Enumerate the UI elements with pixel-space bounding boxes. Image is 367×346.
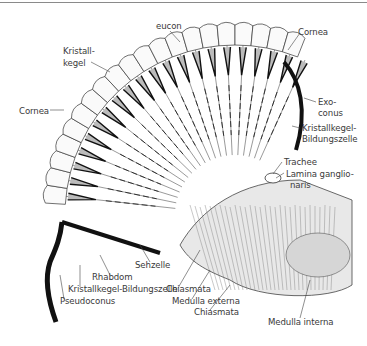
crystal-cone xyxy=(163,61,178,88)
label-rhabdom: Rhabdom xyxy=(92,272,133,282)
crystal-cone xyxy=(240,47,247,75)
crystal-cone xyxy=(177,55,189,83)
crystal-cone xyxy=(68,193,96,200)
label-lamina-ganglionaris-1: Lamina ganglio- xyxy=(286,169,354,179)
trachea-shape xyxy=(265,173,281,183)
label-kristallkegel-2: kegel xyxy=(63,58,86,68)
compound-eye-figure: eucon Kristall- kegel Cornea Cornea Exo-… xyxy=(0,0,367,346)
label-cornea-left: Cornea xyxy=(19,106,49,116)
leader-line xyxy=(304,98,316,102)
label-medulla-interna: Medulla interna xyxy=(268,317,333,327)
crystal-cone xyxy=(102,107,126,127)
crystal-cone xyxy=(70,178,98,187)
label-kristallkegel-1: Kristall- xyxy=(63,46,95,56)
label-kristallkegel-bildungszelle-bottom: Kristallkegel-Bildungszelle xyxy=(68,284,177,294)
label-lamina-ganglionaris-2: naris xyxy=(290,180,311,190)
crystal-cone xyxy=(268,51,278,79)
basement-membrane-left xyxy=(62,222,160,253)
crystal-cone xyxy=(73,162,101,173)
label-exoconus-1: Exo- xyxy=(318,97,336,107)
cornea-facet xyxy=(217,22,235,45)
eye-margin-left xyxy=(47,222,62,322)
label-trachee: Trachee xyxy=(284,157,317,167)
label-kristallkegel-bildungszelle-right-2: Bildungszelle xyxy=(302,134,358,144)
crystal-cone xyxy=(136,76,155,101)
label-chiasmata-1: Chiasmata xyxy=(166,284,211,294)
crystal-cone xyxy=(112,96,134,118)
crystal-cone xyxy=(79,148,106,162)
label-chiasmata-2: Chiasmata xyxy=(194,307,239,317)
crystal-cone xyxy=(255,48,262,76)
crystal-cone xyxy=(149,67,166,93)
label-kristallkegel-bildungszelle-right-1: Kristallkegel- xyxy=(302,123,356,133)
label-sehzelle: Sehzelle xyxy=(135,260,170,270)
leader-line xyxy=(91,62,110,72)
crystal-cone xyxy=(123,85,144,108)
label-exoconus-2: conus xyxy=(318,108,343,118)
cornea-facet xyxy=(235,22,253,45)
label-cornea-right: Cornea xyxy=(298,27,328,37)
medulla-interna-shape xyxy=(286,233,350,277)
label-eucon: eucon xyxy=(156,21,182,31)
leader-line xyxy=(292,126,300,128)
crystal-cone xyxy=(224,47,231,75)
cornea-facet xyxy=(199,24,219,48)
label-medulla-externa: Medulla externa xyxy=(172,296,240,306)
label-pseudoconus: Pseudoconus xyxy=(60,296,115,306)
crystal-cone xyxy=(93,120,118,138)
crystal-cone xyxy=(193,51,203,79)
crystal-cone xyxy=(208,48,215,76)
crystal-cone xyxy=(85,133,111,149)
leader-line xyxy=(273,162,282,174)
